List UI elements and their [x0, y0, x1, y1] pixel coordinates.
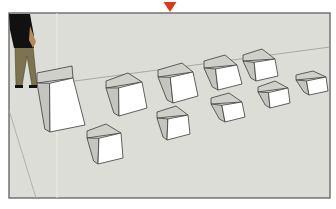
figure-shoe-left [15, 85, 23, 88]
figure-shoe-right [29, 85, 37, 88]
axis-origin-marker [164, 2, 177, 12]
model-viewport[interactable] [0, 0, 336, 209]
